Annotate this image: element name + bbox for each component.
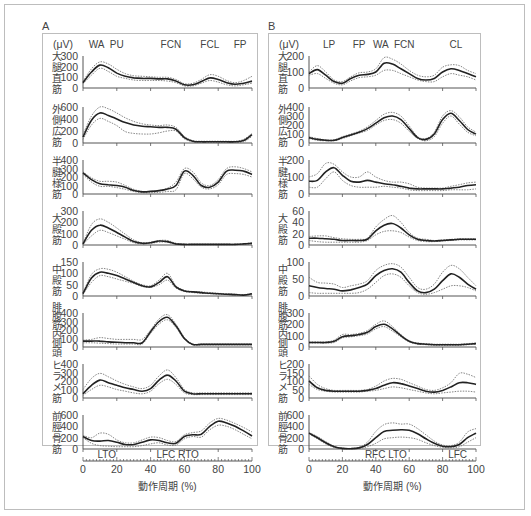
muscle-name: 腱	[278, 167, 288, 178]
y-tick-label: 50	[66, 279, 78, 291]
unit-label: (μV)	[53, 38, 73, 50]
sd-lower-line	[83, 230, 252, 245]
emg-chart: (μV)WAPUFCNFCLFP0100200300大腿直筋0200400600…	[0, 0, 531, 516]
y-tick-label: 200	[286, 154, 304, 166]
muscle-name: 半	[278, 155, 288, 167]
muscle-name: 筋	[52, 443, 62, 455]
sd-upper-line	[309, 215, 476, 240]
y-tick-label: 100	[60, 71, 78, 83]
muscle-name: 広	[52, 125, 62, 137]
muscle-name: 直	[278, 72, 288, 84]
y-tick-label: 200	[286, 318, 304, 330]
x-tick-label: 0	[80, 463, 86, 475]
y-tick-label: 200	[60, 432, 78, 444]
muscle-name: 様	[52, 177, 62, 189]
muscle-name: 脛	[278, 422, 288, 433]
event-label-bottom: LFC RTO	[156, 449, 199, 460]
sd-upper-line	[83, 107, 252, 142]
muscle-name: 殿	[278, 275, 288, 286]
muscle-name: ラ	[278, 371, 288, 382]
y-tick-label: 400	[60, 307, 78, 319]
muscle-name: 外	[52, 104, 62, 115]
muscle-name: 大	[52, 50, 62, 62]
muscle-name: 側	[278, 114, 288, 126]
mean-line	[309, 430, 476, 449]
muscle-name: 大	[52, 212, 62, 224]
muscle-name: 前	[278, 410, 288, 422]
y-tick-label: 0	[298, 443, 304, 455]
mean-line	[309, 324, 476, 344]
sd-upper-line	[309, 264, 476, 290]
muscle-name: メ	[278, 382, 288, 393]
muscle-name: 大	[278, 50, 288, 62]
y-tick-label: 400	[60, 358, 78, 370]
muscle-name: 外	[278, 104, 288, 115]
sd-upper-line	[83, 370, 252, 393]
event-label-top: FCN	[394, 39, 415, 50]
muscle-name: 殿	[52, 275, 62, 286]
muscle-name: 筋	[52, 234, 62, 246]
sd-lower-line	[83, 118, 252, 142]
mean-line	[83, 113, 252, 142]
y-tick-label: 600	[60, 409, 78, 421]
muscle-name: 筋	[278, 188, 288, 200]
muscle-name: 直	[52, 72, 62, 84]
y-tick-label: 0	[72, 82, 78, 94]
muscle-name: 側	[52, 114, 62, 126]
x-tick-label: 100	[243, 463, 261, 475]
y-tick-label: 0	[298, 341, 304, 353]
muscle-name: 腱	[52, 167, 62, 178]
muscle-name: 前	[52, 410, 62, 422]
mean-line	[309, 269, 476, 293]
mean-line	[83, 225, 252, 244]
event-label-bottom: LFC	[448, 449, 467, 460]
y-tick-label: 300	[60, 205, 78, 217]
mean-line	[83, 272, 252, 295]
x-tick-label: 80	[212, 463, 224, 475]
x-tick-label: 0	[306, 463, 312, 475]
sd-upper-line	[309, 373, 476, 391]
y-tick-label: 200	[60, 125, 78, 137]
y-tick-label: 0	[298, 82, 304, 94]
y-tick-label: 400	[286, 420, 304, 432]
mean-line	[83, 375, 252, 394]
muscle-name: 中	[278, 263, 288, 275]
sd-upper-line	[83, 418, 252, 443]
x-tick-label: 40	[370, 463, 382, 475]
y-tick-label: 0	[72, 239, 78, 251]
sd-lower-line	[83, 275, 252, 295]
y-tick-label: 100	[286, 171, 304, 183]
mean-line	[309, 168, 476, 189]
mean-line	[83, 65, 252, 85]
muscle-name: 腿	[278, 62, 288, 73]
muscle-name: ヒ	[278, 360, 288, 371]
x-tick-label: 20	[337, 463, 349, 475]
sd-upper-line	[83, 219, 252, 244]
event-label-top: PU	[110, 39, 124, 50]
muscle-name: 頭	[278, 347, 288, 358]
y-tick-label: 100	[60, 267, 78, 279]
x-tick-label: 100	[467, 463, 485, 475]
muscle-name: メ	[52, 382, 62, 393]
mean-line	[83, 317, 252, 345]
sd-upper-line	[83, 315, 252, 345]
muscle-name: 骨	[278, 433, 288, 444]
y-tick-label: 400	[60, 113, 78, 125]
y-tick-label: 0	[72, 290, 78, 302]
y-tick-label: 200	[60, 61, 78, 73]
sd-lower-line	[309, 384, 476, 393]
event-label-top: FP	[234, 39, 247, 50]
muscle-name: 筋	[278, 392, 288, 404]
y-tick-label: 100	[286, 66, 304, 78]
muscle-name: 様	[278, 177, 288, 189]
y-tick-label: 0	[298, 188, 304, 200]
y-tick-label: 600	[60, 101, 78, 113]
event-label-bottom: LTO	[97, 449, 116, 460]
y-tick-label: 0	[72, 443, 78, 455]
y-tick-label: 50	[292, 273, 304, 285]
x-axis-title: 動作周期 (%)	[363, 480, 421, 492]
mean-line	[309, 223, 476, 241]
x-tick-label: 60	[403, 463, 415, 475]
sd-upper-line	[309, 423, 476, 449]
y-tick-label: 400	[60, 420, 78, 432]
